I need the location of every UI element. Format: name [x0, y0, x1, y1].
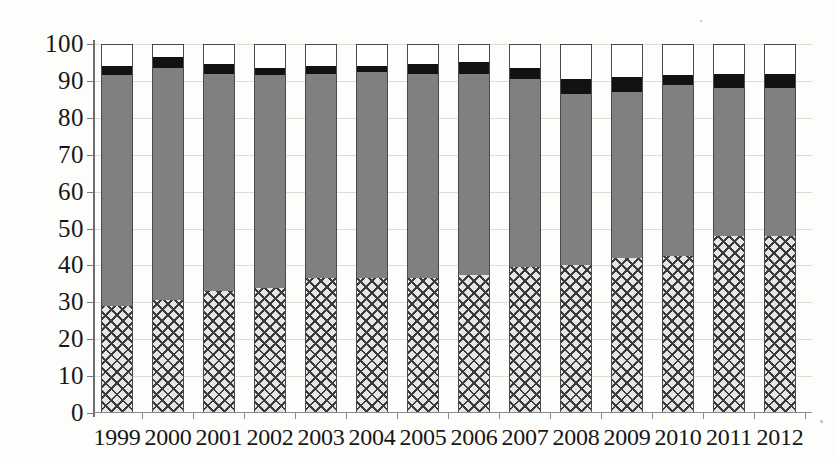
x-axis-tick — [499, 412, 500, 419]
y-axis-tick-label: 30 — [8, 289, 84, 314]
x-axis-tick — [346, 412, 347, 419]
bar-segment-gray — [560, 94, 592, 266]
x-axis-label-1999: 1999 — [88, 424, 146, 450]
bar-segment-black — [611, 77, 643, 92]
bar-segment-white — [713, 44, 745, 74]
bar-segment-crosshatch — [713, 236, 745, 413]
bar-segment-gray — [305, 74, 337, 279]
bar-segment-crosshatch — [407, 278, 439, 413]
bar-segment-gray — [458, 74, 490, 275]
bar-segment-black — [305, 66, 337, 73]
bar-segment-white — [458, 44, 490, 62]
bar-segment-black — [713, 74, 745, 89]
bar-segment-gray — [662, 85, 694, 257]
bar-segment-black — [356, 66, 388, 72]
bar-segment-white — [152, 44, 184, 57]
bar-segment-crosshatch — [101, 306, 133, 413]
x-axis-tick — [805, 412, 806, 419]
bar-segment-black — [458, 62, 490, 73]
y-axis-tick-label: 60 — [8, 179, 84, 204]
scan-speck — [820, 420, 823, 423]
bar-segment-crosshatch — [203, 291, 235, 413]
x-axis-tick — [754, 412, 755, 419]
x-axis-label-2005: 2005 — [394, 424, 452, 450]
scan-speck — [700, 20, 702, 22]
bar-segment-black — [254, 68, 286, 75]
bar-segment-crosshatch — [662, 256, 694, 413]
x-axis-tick — [193, 412, 194, 419]
x-axis-tick — [601, 412, 602, 419]
y-axis-tick-label: 40 — [8, 252, 84, 277]
bar-segment-crosshatch — [560, 265, 592, 413]
bar-segment-white — [305, 44, 337, 66]
y-axis-tick-label: 100 — [8, 31, 84, 56]
bar-segment-gray — [611, 92, 643, 258]
bar-2008[interactable] — [560, 44, 592, 413]
bar-segment-black — [152, 57, 184, 68]
bar-2010[interactable] — [662, 44, 694, 413]
bar-segment-gray — [509, 79, 541, 267]
scan-speck — [60, 300, 62, 302]
bar-2005[interactable] — [407, 44, 439, 413]
bar-segment-crosshatch — [254, 288, 286, 413]
x-axis-baseline — [93, 412, 812, 413]
bar-2007[interactable] — [509, 44, 541, 413]
bar-segment-white — [509, 44, 541, 68]
y-axis-tick-label: 50 — [8, 216, 84, 241]
bar-segment-black — [203, 64, 235, 73]
bar-segment-white — [101, 44, 133, 66]
bar-segment-black — [560, 79, 592, 94]
y-axis-tick-label: 20 — [8, 326, 84, 351]
bar-2009[interactable] — [611, 44, 643, 413]
bar-2011[interactable] — [713, 44, 745, 413]
bar-2004[interactable] — [356, 44, 388, 413]
bar-segment-white — [407, 44, 439, 64]
bar-1999[interactable] — [101, 44, 133, 413]
bar-2001[interactable] — [203, 44, 235, 413]
x-axis-label-2011: 2011 — [700, 424, 758, 450]
plot-area — [95, 44, 812, 413]
bar-segment-gray — [407, 74, 439, 279]
y-axis-labels: 0102030405060708090100 — [0, 0, 84, 458]
bar-segment-gray — [101, 75, 133, 306]
x-axis-label-2009: 2009 — [598, 424, 656, 450]
bar-segment-gray — [254, 75, 286, 287]
bar-segment-crosshatch — [764, 236, 796, 413]
stacked-bar-chart: 0102030405060708090100 19992000200120022… — [0, 0, 837, 458]
x-axis-label-2008: 2008 — [547, 424, 605, 450]
x-axis-tick — [142, 412, 143, 419]
bar-segment-crosshatch — [152, 300, 184, 413]
y-axis-tick-label: 0 — [8, 400, 84, 425]
x-axis-tick — [448, 412, 449, 419]
x-axis-label-2003: 2003 — [292, 424, 350, 450]
bar-segment-white — [203, 44, 235, 64]
bar-segment-white — [254, 44, 286, 68]
y-axis-tick-label: 90 — [8, 68, 84, 93]
x-axis-tick — [652, 412, 653, 419]
bar-segment-crosshatch — [509, 267, 541, 413]
bar-segment-black — [764, 74, 796, 89]
bar-segment-black — [662, 75, 694, 84]
bar-2002[interactable] — [254, 44, 286, 413]
x-axis-label-2010: 2010 — [649, 424, 707, 450]
bar-2012[interactable] — [764, 44, 796, 413]
x-axis-label-2000: 2000 — [139, 424, 197, 450]
bar-2000[interactable] — [152, 44, 184, 413]
x-axis-label-2004: 2004 — [343, 424, 401, 450]
x-axis-label-2006: 2006 — [445, 424, 503, 450]
x-axis-tick — [244, 412, 245, 419]
x-axis-label-2001: 2001 — [190, 424, 248, 450]
scan-speck — [470, 435, 472, 437]
bar-segment-gray — [713, 88, 745, 236]
x-axis-label-2002: 2002 — [241, 424, 299, 450]
y-axis-tick-label: 70 — [8, 142, 84, 167]
bar-segment-white — [560, 44, 592, 79]
bar-segment-crosshatch — [305, 278, 337, 413]
bar-2003[interactable] — [305, 44, 337, 413]
bar-segment-black — [101, 66, 133, 75]
bar-segment-white — [356, 44, 388, 66]
bar-segment-crosshatch — [611, 258, 643, 413]
bar-segment-white — [764, 44, 796, 74]
bar-2006[interactable] — [458, 44, 490, 413]
bar-segment-black — [509, 68, 541, 79]
